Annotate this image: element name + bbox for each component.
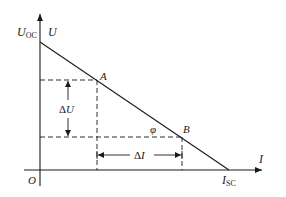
y-axis-label: U [48,25,58,39]
point-a-label: A [99,70,107,82]
y-intercept-label: UOC [17,25,37,40]
angle-phi-label: φ [150,123,156,135]
ui-characteristic-diagram: UOC U A B φ ΔU ΔI O ISC I [0,0,286,197]
x-axis-label: I [258,152,264,166]
origin-label: O [28,174,36,186]
delta-u-label: ΔU [59,103,75,115]
x-intercept-label: ISC [221,173,236,188]
point-b-label: B [183,123,190,135]
delta-i-label: ΔI [134,149,146,161]
